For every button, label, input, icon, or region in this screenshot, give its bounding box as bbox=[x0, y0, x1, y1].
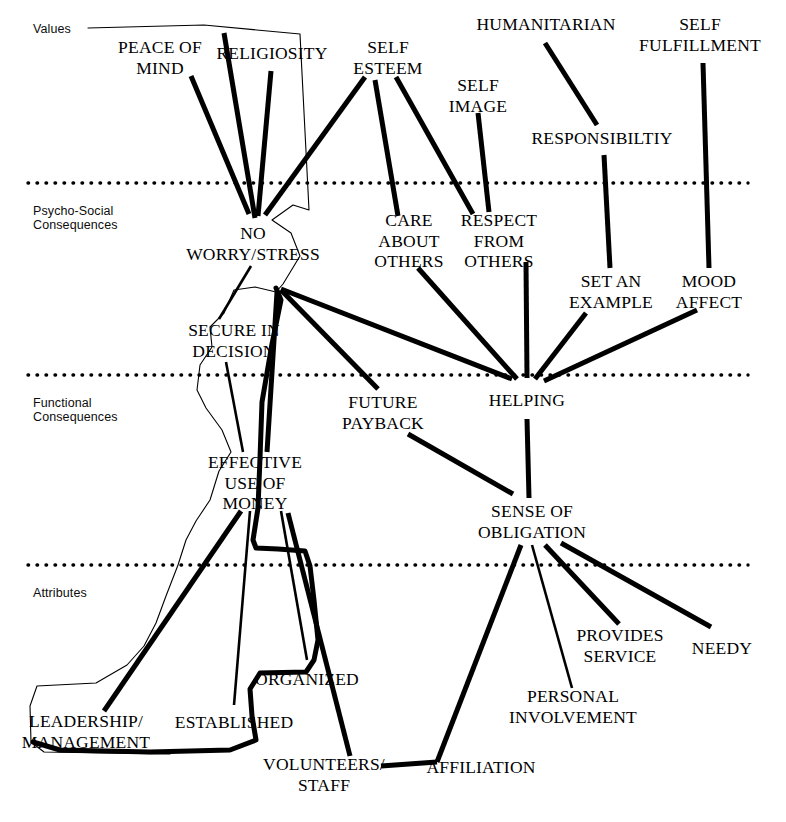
node-respect-from-others: RESPECT FROM OTHERS bbox=[461, 210, 537, 272]
link-respect-selfimage bbox=[478, 113, 489, 212]
node-mood-affect: MOOD AFFECT bbox=[676, 271, 742, 312]
node-responsibility: RESPONSIBILTIY bbox=[531, 128, 672, 149]
link-soo-helping bbox=[527, 419, 529, 498]
node-volunteers-staff: VOLUNTEERS/ STAFF bbox=[263, 754, 385, 795]
node-care-about-others: CARE ABOUT OTHERS bbox=[374, 210, 443, 272]
link-care-selfesteem bbox=[375, 80, 398, 216]
link-eum-established bbox=[234, 511, 250, 705]
link-soo-future bbox=[408, 434, 513, 494]
node-helping: HELPING bbox=[489, 390, 565, 411]
band-label-psycho_social: Psycho-Social Consequences bbox=[33, 204, 118, 232]
link-soo-volunteers bbox=[437, 545, 521, 762]
link-secure-nws bbox=[219, 266, 251, 319]
link-nws-religiosity-b bbox=[258, 71, 271, 216]
node-set-an-example: SET AN EXAMPLE bbox=[569, 271, 653, 312]
node-effective-use-of-money: EFFECTIVE USE OF MONEY bbox=[208, 452, 302, 514]
node-leadership-management: LEADERSHIP/ MANAGEMENT bbox=[22, 711, 150, 752]
hvm-figure: ValuesPsycho-Social ConsequencesFunction… bbox=[0, 0, 786, 822]
node-no-worry-stress: NO WORRY/STRESS bbox=[186, 223, 320, 264]
link-helping-respect bbox=[526, 262, 527, 378]
node-personal-involvement: PERSONAL INVOLVEMENT bbox=[509, 686, 637, 727]
node-established: ESTABLISHED bbox=[175, 712, 293, 733]
node-self-esteem: SELF ESTEEM bbox=[353, 37, 422, 78]
node-affiliation: AFFILIATION bbox=[426, 757, 535, 778]
node-organized: ORGANIZED bbox=[255, 669, 359, 690]
node-provides-service: PROVIDES SERVICE bbox=[576, 625, 663, 666]
link-setexample-resp bbox=[604, 155, 610, 268]
band-label-attributes: Attributes bbox=[33, 586, 87, 600]
band-label-values: Values bbox=[33, 22, 71, 36]
link-nws-selfesteem bbox=[265, 77, 365, 215]
node-humanitarian: HUMANITARIAN bbox=[476, 14, 615, 35]
link-resp-humanitarian bbox=[545, 43, 597, 125]
node-secure-in-decision: SECURE IN DECISION bbox=[188, 320, 280, 361]
band-label-functional: Functional Consequences bbox=[33, 396, 118, 424]
link-eum-volunteers bbox=[288, 513, 350, 756]
node-religiosity: RELIGIOSITY bbox=[216, 43, 327, 64]
node-self-image: SELF IMAGE bbox=[449, 75, 507, 116]
link-mood-fulfillment bbox=[703, 63, 709, 268]
outline-layer bbox=[30, 25, 318, 754]
link-nws-future bbox=[281, 290, 378, 389]
node-future-payback: FUTURE PAYBACK bbox=[342, 392, 424, 433]
link-helping-setexample bbox=[535, 313, 586, 379]
link-helping-mood bbox=[544, 310, 697, 381]
node-sense-of-obligation: SENSE OF OBLIGATION bbox=[478, 501, 586, 542]
node-self-fulfillment: SELF FULFILLMENT bbox=[639, 14, 761, 55]
node-peace-of-mind: PEACE OF MIND bbox=[118, 37, 202, 78]
link-eum-leadership bbox=[104, 511, 241, 711]
node-needy: NEEDY bbox=[692, 638, 752, 659]
